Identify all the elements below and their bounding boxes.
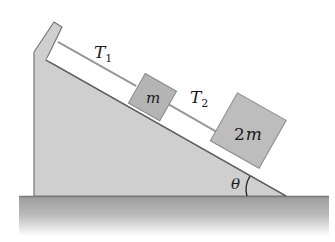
incline-diagram: m 2m T1 T2 θ (0, 0, 335, 242)
label-2m: 2m (234, 124, 262, 144)
label-theta: θ (231, 175, 240, 193)
ground (19, 196, 329, 236)
label-m: m (146, 89, 160, 107)
label-t1: T1 (94, 42, 112, 65)
label-t2: T2 (190, 87, 208, 110)
